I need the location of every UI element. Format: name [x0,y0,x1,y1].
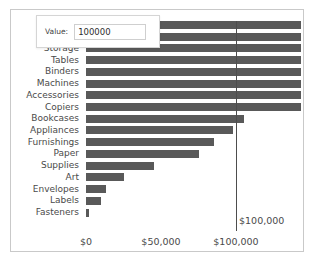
category-label: Accessories [26,91,79,100]
category-label: Supplies [41,161,79,170]
x-axis-tick-label: $50,000 [141,236,180,247]
category-label: Paper [54,149,80,158]
bar[interactable] [86,80,301,88]
category-label: Furnishings [28,138,79,147]
category-label: Machines [37,79,79,88]
bar[interactable] [86,197,101,205]
category-label: Appliances [30,126,79,135]
value-input[interactable] [74,24,146,40]
chart-frame: StorageTablesBindersMachinesAccessoriesC… [10,9,304,252]
category-label: Tables [51,56,79,65]
category-label: Envelopes [33,185,79,194]
bar[interactable] [86,103,301,111]
x-axis-tick-label: $0 [80,236,92,247]
bar[interactable] [86,150,199,158]
category-label: Copiers [45,103,79,112]
category-label: Art [66,173,79,182]
bar[interactable] [86,173,124,181]
category-label: Binders [45,67,79,76]
category-label: Labels [50,196,79,205]
bar[interactable] [86,185,106,193]
x-axis-tick-label: $100,000 [213,236,258,247]
category-label: Fasteners [36,208,79,217]
value-input-label: Value: [45,27,68,36]
bar[interactable] [86,68,301,76]
category-label: Bookcases [31,114,79,123]
bar[interactable] [86,56,301,64]
bar[interactable] [86,115,244,123]
reference-line-label: $100,000 [239,215,284,226]
value-control-panel[interactable]: Value: [36,15,160,48]
reference-line [236,21,237,231]
bar[interactable] [86,126,233,134]
bar[interactable] [86,138,214,146]
bar[interactable] [86,162,154,170]
bar[interactable] [86,209,89,217]
bar[interactable] [86,91,301,99]
